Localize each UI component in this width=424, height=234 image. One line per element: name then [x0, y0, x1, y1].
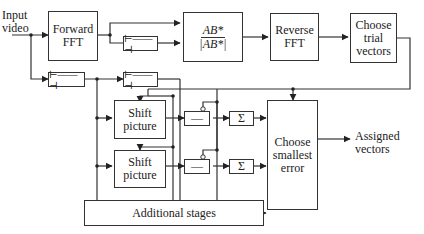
delay-element-3: ⊢——⊣: [123, 72, 158, 87]
sum-label-1: Σ: [238, 112, 245, 125]
forward-fft-block: Forward FFT: [48, 11, 98, 61]
delay-element-2: ⊢——⊣: [48, 72, 85, 87]
shift-picture-label-2: Shift picture: [123, 156, 156, 182]
choose-smallest-error-block: Choose smallest error: [267, 100, 318, 210]
phase-correlation-block: AB* |AB*|: [183, 12, 243, 62]
forward-fft-label: Forward FFT: [53, 23, 94, 49]
delay-element-1: ⊢——⊣: [123, 36, 158, 51]
shift-picture-block-2: Shift picture: [114, 150, 166, 188]
subtract-label-1: —: [191, 112, 203, 125]
input-label: Input video: [2, 9, 29, 35]
sum-label-2: Σ: [238, 160, 245, 173]
sum-block-1: Σ: [229, 111, 254, 126]
shift-picture-block-1: Shift picture: [114, 100, 166, 139]
additional-stages-label: Additional stages: [132, 207, 216, 220]
phase-correlation-numerator: AB*: [201, 24, 226, 38]
delay-element-icon: ⊢——⊣: [124, 33, 157, 55]
shift-picture-label-1: Shift picture: [123, 107, 156, 133]
delay-element-icon: ⊢——⊣: [49, 69, 84, 91]
choose-trial-vectors-label: Choose trial vectors: [356, 19, 392, 58]
phase-correlation-denominator: |AB*|: [199, 38, 226, 51]
reverse-fft-block: Reverse FFT: [270, 13, 319, 61]
subtract-block-2: —: [184, 159, 210, 174]
reverse-fft-label: Reverse FFT: [275, 24, 314, 50]
subtract-block-1: —: [184, 111, 210, 126]
output-label: Assigned vectors: [355, 130, 400, 156]
choose-smallest-error-label: Choose smallest error: [273, 136, 312, 175]
additional-stages-block: Additional stages: [84, 200, 264, 226]
delay-element-icon: ⊢——⊣: [124, 69, 157, 91]
choose-trial-vectors-block: Choose trial vectors: [350, 13, 397, 63]
subtract-label-2: —: [191, 160, 203, 173]
sum-block-2: Σ: [229, 159, 254, 174]
